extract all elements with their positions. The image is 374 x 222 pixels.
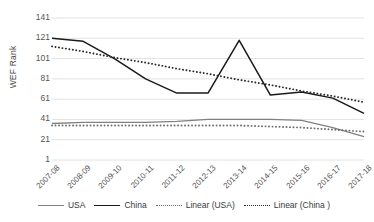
legend-label: Linear (USA): [186, 200, 235, 210]
legend-label: USA: [68, 200, 85, 210]
legend-label: Linear (China ): [274, 200, 330, 210]
y-tick-label: 41: [18, 114, 50, 123]
chart-legend: USAChinaLinear (USA)Linear (China ): [0, 200, 368, 210]
legend-swatch-icon: [38, 205, 64, 206]
legend-item-linear-china[interactable]: Linear (China ): [244, 200, 330, 210]
y-tick-label: 141: [18, 13, 50, 22]
legend-item-usa[interactable]: USA: [38, 200, 85, 210]
y-tick-label: 61: [18, 94, 50, 103]
legend-swatch-icon: [244, 205, 270, 206]
series-line-linear-usa: [52, 126, 364, 132]
y-tick-label: 21: [18, 135, 50, 144]
legend-swatch-icon: [94, 205, 120, 206]
legend-label: China: [124, 200, 146, 210]
legend-item-china[interactable]: China: [94, 200, 146, 210]
y-tick-label: 81: [18, 74, 50, 83]
series-line-china: [52, 38, 364, 113]
legend-item-linear-usa[interactable]: Linear (USA): [156, 200, 235, 210]
y-tick-label: 1: [18, 155, 50, 164]
series-line-linear-china: [52, 46, 364, 102]
y-tick-label: 101: [18, 54, 50, 63]
legend-swatch-icon: [156, 205, 182, 206]
y-tick-label: 121: [18, 33, 50, 42]
